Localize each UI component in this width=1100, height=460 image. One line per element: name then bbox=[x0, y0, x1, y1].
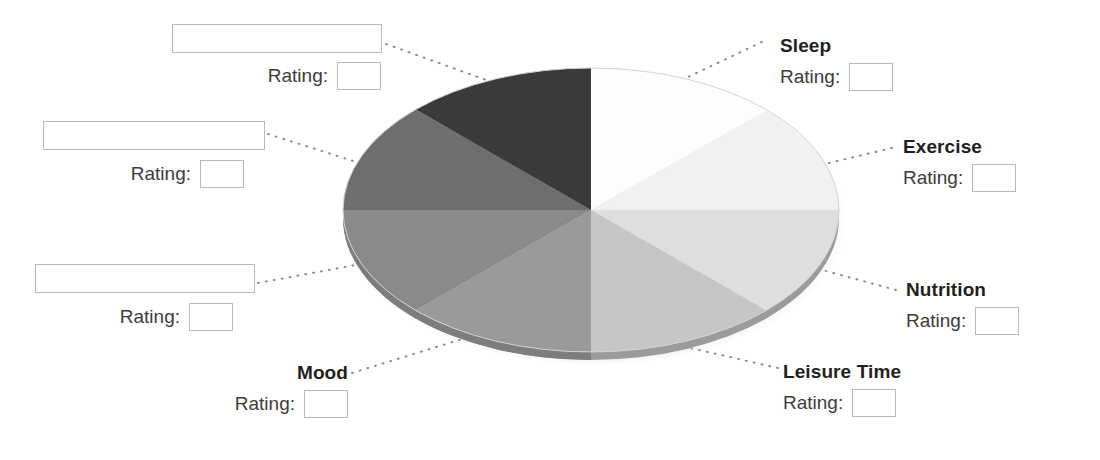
rating-row-mood: Rating: bbox=[183, 390, 348, 418]
name-input-blank-1[interactable] bbox=[35, 264, 255, 293]
rating-input-sleep[interactable] bbox=[849, 63, 893, 91]
rating-label-blank-2: Rating: bbox=[131, 163, 191, 185]
wellness-wheel bbox=[338, 60, 848, 365]
rating-row-nutrition: Rating: bbox=[906, 307, 1019, 335]
label-group-nutrition: Nutrition Rating: bbox=[906, 279, 1019, 335]
segment-title-mood: Mood bbox=[183, 362, 348, 384]
rating-row-leisure-time: Rating: bbox=[783, 389, 901, 417]
rating-input-blank-2[interactable] bbox=[200, 160, 244, 188]
rating-input-leisure-time[interactable] bbox=[852, 389, 896, 417]
rating-input-nutrition[interactable] bbox=[975, 307, 1019, 335]
rating-row-sleep: Rating: bbox=[780, 63, 893, 91]
rating-row-blank-2: Rating: bbox=[43, 160, 265, 188]
rating-row-exercise: Rating: bbox=[903, 164, 1016, 192]
rating-label-exercise: Rating: bbox=[903, 167, 963, 189]
label-group-leisure-time: Leisure Time Rating: bbox=[783, 361, 901, 417]
wellness-wheel-svg bbox=[338, 60, 848, 365]
name-input-blank-2[interactable] bbox=[43, 121, 265, 150]
rating-label-nutrition: Rating: bbox=[906, 310, 966, 332]
label-group-blank-1: Rating: bbox=[35, 264, 255, 331]
segment-title-nutrition: Nutrition bbox=[906, 279, 1019, 301]
segment-title-exercise: Exercise bbox=[903, 136, 1016, 158]
label-group-exercise: Exercise Rating: bbox=[903, 136, 1016, 192]
rating-label-blank-3: Rating: bbox=[268, 65, 328, 87]
segment-title-sleep: Sleep bbox=[780, 35, 893, 57]
segment-title-leisure-time: Leisure Time bbox=[783, 361, 901, 383]
rating-input-exercise[interactable] bbox=[972, 164, 1016, 192]
rating-label-blank-1: Rating: bbox=[120, 306, 180, 328]
rating-label-leisure-time: Rating: bbox=[783, 392, 843, 414]
rating-label-mood: Rating: bbox=[235, 393, 295, 415]
label-group-mood: Mood Rating: bbox=[183, 362, 348, 418]
wheel-segments bbox=[343, 68, 839, 352]
worksheet-canvas: Rating: Rating: Rating: Mood Rating: Sle… bbox=[0, 0, 1100, 460]
rating-input-mood[interactable] bbox=[304, 390, 348, 418]
name-input-blank-3[interactable] bbox=[172, 24, 382, 53]
rating-row-blank-3: Rating: bbox=[172, 62, 382, 90]
label-group-blank-3: Rating: bbox=[172, 24, 382, 90]
label-group-blank-2: Rating: bbox=[43, 121, 265, 188]
label-group-sleep: Sleep Rating: bbox=[780, 35, 893, 91]
rating-label-sleep: Rating: bbox=[780, 66, 840, 88]
rating-row-blank-1: Rating: bbox=[35, 303, 255, 331]
rating-input-blank-3[interactable] bbox=[337, 62, 381, 90]
rating-input-blank-1[interactable] bbox=[189, 303, 233, 331]
